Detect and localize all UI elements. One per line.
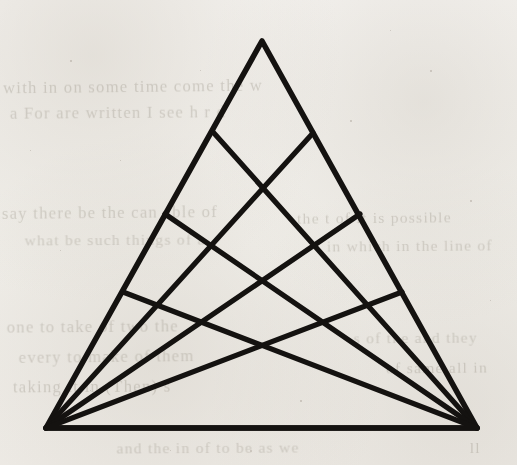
figure-page: with in on some time come the wa For are… [0, 0, 517, 465]
triangle-outline [46, 41, 477, 428]
cevian-from-bottom-left-1 [46, 133, 313, 428]
triangle-lattice-figure: Geometric line figure [0, 0, 517, 465]
cevian-from-bottom-right-2 [165, 214, 477, 428]
cevian-from-bottom-right-1 [213, 132, 477, 428]
cevian-from-bottom-right-3 [123, 292, 477, 428]
triangle-outline-group [46, 41, 477, 428]
cevian-from-bottom-left-3 [46, 292, 402, 428]
